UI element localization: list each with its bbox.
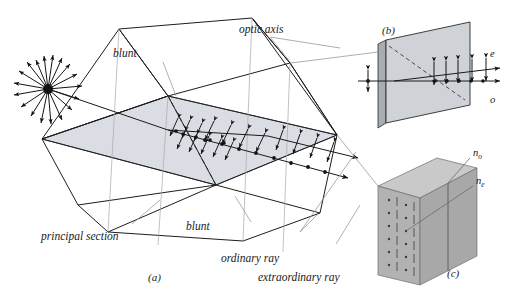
rhomb-right-upper-facet — [252, 18, 337, 135]
connector-a-to-c — [337, 135, 378, 186]
label-principal-section: principal section — [40, 230, 119, 243]
panel-b-incident-dot — [366, 79, 370, 83]
label-ordinary-ray: ordinary ray — [221, 252, 280, 265]
label-optic-axis: optic axis — [239, 23, 284, 36]
panel-c-block: no ne (c) — [337, 135, 485, 285]
label-o-ray: o — [490, 94, 495, 105]
label-e-ray: e — [490, 48, 495, 59]
label-blunt-bottom: blunt — [186, 220, 210, 232]
panel-letter-c: (c) — [447, 267, 460, 280]
panel-a-rhombohedron: blunt optic axis blunt principal section… — [14, 18, 360, 284]
principal-section-plane — [42, 96, 337, 185]
panel-letter-a: (a) — [148, 271, 161, 284]
slab-front-face — [386, 22, 470, 123]
panel-letter-b: (b) — [382, 24, 395, 37]
label-blunt-top: blunt — [113, 47, 137, 59]
optics-figure-svg: blunt optic axis blunt principal section… — [0, 0, 511, 299]
label-n-e: ne — [476, 175, 485, 189]
slab-side-face — [378, 40, 386, 128]
label-extraordinary-ray: extraordinary ray — [258, 271, 341, 284]
label-n-o: no — [473, 147, 482, 161]
connector-a-to-b — [291, 52, 378, 63]
figure-root: blunt optic axis blunt principal section… — [0, 0, 511, 299]
